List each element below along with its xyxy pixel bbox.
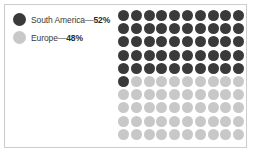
waffle-dot-south-america xyxy=(144,23,155,34)
waffle-dot-europe xyxy=(156,129,167,140)
waffle-dot-europe xyxy=(182,116,193,127)
waffle-row xyxy=(118,89,246,102)
waffle-dot-south-america xyxy=(156,10,167,21)
waffle-dot-europe xyxy=(169,102,180,113)
waffle-dot-europe xyxy=(169,116,180,127)
waffle-dot-europe xyxy=(156,76,167,87)
legend-name-europe: Europe xyxy=(31,33,58,43)
legend-swatch-circle-icon-europe xyxy=(13,31,26,44)
waffle-dot-south-america xyxy=(195,63,206,74)
waffle-dot-south-america xyxy=(182,63,193,74)
waffle-dot-south-america xyxy=(156,36,167,47)
waffle-dot-south-america xyxy=(169,23,180,34)
waffle-dot-south-america xyxy=(131,50,142,61)
waffle-dot-south-america xyxy=(208,36,219,47)
waffle-row xyxy=(118,63,246,76)
waffle-dot-europe xyxy=(220,116,231,127)
waffle-dot-europe xyxy=(182,102,193,113)
waffle-dot-south-america xyxy=(208,50,219,61)
waffle-dot-south-america xyxy=(208,10,219,21)
waffle-dot-europe xyxy=(144,102,155,113)
waffle-dot-europe xyxy=(233,76,244,87)
waffle-dot-south-america xyxy=(169,36,180,47)
waffle-dot-south-america xyxy=(169,10,180,21)
waffle-dot-south-america xyxy=(131,63,142,74)
waffle-dot-south-america xyxy=(156,50,167,61)
waffle-dot-europe xyxy=(131,129,142,140)
waffle-dot-europe xyxy=(131,76,142,87)
waffle-dot-south-america xyxy=(182,10,193,21)
waffle-row xyxy=(118,116,246,129)
waffle-dot-south-america xyxy=(144,50,155,61)
waffle-dot-europe xyxy=(233,129,244,140)
waffle-dot-south-america xyxy=(144,36,155,47)
waffle-dot-south-america xyxy=(118,63,129,74)
legend-value-south-america: 52% xyxy=(93,15,110,25)
waffle-dot-south-america xyxy=(144,10,155,21)
waffle-dot-europe xyxy=(195,76,206,87)
legend-label-europe: Europe—48% xyxy=(31,33,83,43)
waffle-dot-south-america xyxy=(131,23,142,34)
waffle-dot-europe xyxy=(131,116,142,127)
legend-swatch-circle-icon-south-america xyxy=(13,13,26,26)
waffle-dot-south-america xyxy=(195,50,206,61)
legend-name-south-america: South America xyxy=(31,15,85,25)
waffle-dot-europe xyxy=(131,102,142,113)
waffle-dot-europe xyxy=(208,129,219,140)
waffle-dot-europe xyxy=(233,116,244,127)
waffle-dot-south-america xyxy=(131,36,142,47)
waffle-row xyxy=(118,23,246,36)
chart-frame: South America—52% Europe—48% xyxy=(4,4,247,148)
waffle-dot-europe xyxy=(169,129,180,140)
waffle-dot-south-america xyxy=(233,23,244,34)
waffle-dot-europe xyxy=(182,89,193,100)
waffle-dot-south-america xyxy=(220,23,231,34)
waffle-dot-south-america xyxy=(195,36,206,47)
waffle-dot-south-america xyxy=(195,23,206,34)
waffle-dot-europe xyxy=(156,102,167,113)
waffle-dot-south-america xyxy=(169,50,180,61)
waffle-dot-europe xyxy=(118,102,129,113)
waffle-dot-south-america xyxy=(220,10,231,21)
waffle-dot-south-america xyxy=(118,76,129,87)
waffle-dot-europe xyxy=(195,89,206,100)
waffle-dot-south-america xyxy=(182,36,193,47)
legend-item-europe[interactable]: Europe—48% xyxy=(13,29,113,46)
legend-label-south-america: South America—52% xyxy=(31,15,110,25)
waffle-row xyxy=(118,76,246,89)
legend-item-south-america[interactable]: South America—52% xyxy=(13,11,113,28)
waffle-dot-south-america xyxy=(118,23,129,34)
waffle-dot-europe xyxy=(169,89,180,100)
waffle-dot-europe xyxy=(220,89,231,100)
waffle-dot-europe xyxy=(144,116,155,127)
waffle-dot-south-america xyxy=(118,36,129,47)
waffle-row xyxy=(118,129,246,142)
waffle-dot-south-america xyxy=(182,23,193,34)
waffle-dot-europe xyxy=(144,89,155,100)
waffle-dot-south-america xyxy=(233,36,244,47)
legend-separator-europe: — xyxy=(58,33,66,43)
waffle-dot-south-america xyxy=(118,10,129,21)
waffle-dot-europe xyxy=(220,76,231,87)
waffle-dot-europe xyxy=(208,116,219,127)
waffle-dot-europe xyxy=(131,89,142,100)
waffle-dot-europe xyxy=(220,102,231,113)
waffle-dot-south-america xyxy=(118,50,129,61)
waffle-dot-europe xyxy=(118,116,129,127)
waffle-dot-south-america xyxy=(220,50,231,61)
waffle-dot-south-america xyxy=(131,10,142,21)
waffle-dot-europe xyxy=(144,129,155,140)
waffle-dot-europe xyxy=(233,102,244,113)
waffle-dot-europe xyxy=(182,76,193,87)
waffle-dot-europe xyxy=(118,129,129,140)
waffle-row xyxy=(118,36,246,49)
waffle-dot-south-america xyxy=(156,63,167,74)
waffle-row xyxy=(118,10,246,23)
waffle-dot-europe xyxy=(208,102,219,113)
waffle-dot-europe xyxy=(156,116,167,127)
waffle-row xyxy=(118,102,246,115)
waffle-dot-europe xyxy=(195,102,206,113)
waffle-dot-europe xyxy=(208,76,219,87)
waffle-dot-grid xyxy=(118,10,246,144)
waffle-dot-europe xyxy=(169,76,180,87)
